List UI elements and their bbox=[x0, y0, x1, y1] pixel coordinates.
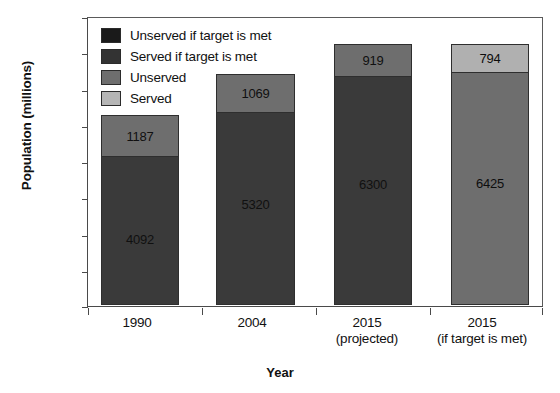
legend-item-served-if-target-met[interactable]: Served if target is met bbox=[101, 46, 271, 66]
bar-2015-projected[interactable]: 919 6300 bbox=[334, 44, 412, 306]
bar-2004-served-value: 5320 bbox=[241, 198, 269, 211]
bar-2015-if-target-met-segment-unserved[interactable]: 794 bbox=[451, 44, 529, 73]
legend-label-served: Served bbox=[130, 91, 172, 106]
bar-2004-segment-served[interactable]: 5320 bbox=[216, 112, 295, 305]
legend-label-unserved-if-target-met: Unserved if target is met bbox=[130, 28, 271, 43]
x-tick-label-2015-if-target-met-line1: 2015 bbox=[467, 315, 496, 330]
bar-2015-if-target-met[interactable]: 794 6425 bbox=[451, 44, 529, 306]
bar-1990-segment-unserved[interactable]: 1187 bbox=[101, 115, 179, 158]
x-tick-label-2015-if-target-met: 2015 (if target is met) bbox=[407, 315, 557, 347]
legend-item-served[interactable]: Served bbox=[101, 88, 271, 108]
y-tick-mark-2000 bbox=[82, 236, 88, 237]
bar-1990-served-value: 4092 bbox=[126, 233, 154, 246]
bar-1990-unserved-value: 1187 bbox=[126, 130, 153, 143]
legend-swatch-unserved bbox=[101, 70, 121, 85]
x-tick-mark-0 bbox=[88, 308, 89, 315]
bar-1990-segment-served[interactable]: 4092 bbox=[101, 156, 179, 304]
stacked-bar-chart: Population (millions) 8000 7000 6000 500… bbox=[0, 0, 560, 393]
x-tick-mark-3 bbox=[430, 308, 431, 315]
x-tick-mark-1 bbox=[202, 308, 203, 315]
y-tick-mark-6000 bbox=[82, 91, 88, 92]
x-tick-label-1990-line1: 1990 bbox=[122, 315, 151, 330]
legend-swatch-served-if-target-met bbox=[101, 49, 121, 64]
x-axis-title: Year bbox=[0, 365, 560, 380]
bar-2004[interactable]: 1069 5320 bbox=[216, 74, 295, 306]
x-tick-mark-2 bbox=[316, 308, 317, 315]
x-tick-label-2004-line1: 2004 bbox=[237, 315, 266, 330]
bar-1990[interactable]: 1187 4092 bbox=[101, 115, 179, 306]
legend-label-unserved: Unserved bbox=[130, 70, 186, 85]
x-tick-mark-4 bbox=[542, 308, 543, 315]
plot-area: 1187 4092 1069 5320 919 6300 bbox=[87, 17, 543, 307]
legend-label-served-if-target-met: Served if target is met bbox=[130, 49, 257, 64]
bar-2015-projected-served-value: 6300 bbox=[359, 178, 387, 191]
legend-item-unserved-if-target-met[interactable]: Unserved if target is met bbox=[101, 25, 271, 45]
bar-2015-if-target-met-segment-served[interactable]: 6425 bbox=[451, 72, 529, 305]
x-tick-label-2015-projected-line1: 2015 bbox=[352, 315, 381, 330]
bar-2015-if-target-met-unserved-value: 794 bbox=[479, 52, 500, 65]
y-tick-mark-8000 bbox=[82, 18, 88, 19]
y-tick-mark-1000 bbox=[82, 272, 88, 273]
x-tick-label-2015-if-target-met-line2: (if target is met) bbox=[407, 331, 557, 347]
bar-2015-projected-segment-served[interactable]: 6300 bbox=[334, 76, 412, 304]
y-tick-mark-3000 bbox=[82, 199, 88, 200]
y-tick-mark-4000 bbox=[82, 163, 88, 164]
legend-swatch-unserved-if-target-met bbox=[101, 28, 121, 43]
y-tick-mark-7000 bbox=[82, 54, 88, 55]
bar-2015-projected-unserved-value: 919 bbox=[362, 54, 383, 67]
legend-swatch-served bbox=[101, 91, 121, 106]
y-tick-mark-5000 bbox=[82, 127, 88, 128]
legend: Unserved if target is met Served if targ… bbox=[101, 25, 271, 109]
y-axis-title: Population (millions) bbox=[19, 0, 34, 256]
bar-2015-projected-segment-unserved[interactable]: 919 bbox=[334, 44, 412, 77]
legend-item-unserved[interactable]: Unserved bbox=[101, 67, 271, 87]
bar-2015-if-target-met-served-value: 6425 bbox=[476, 177, 504, 190]
